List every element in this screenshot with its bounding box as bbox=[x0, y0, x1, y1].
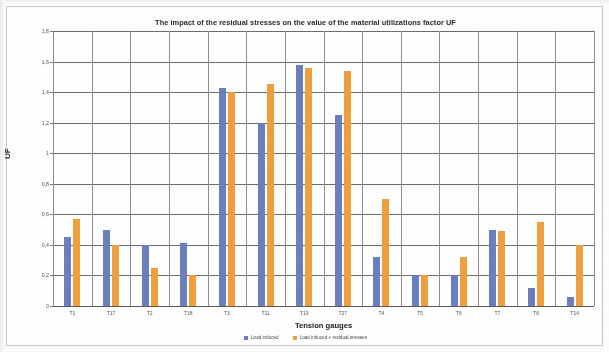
bar bbox=[498, 231, 505, 306]
gridline-vertical bbox=[169, 31, 170, 306]
x-tick-label: T2 bbox=[147, 310, 153, 316]
legend-item[interactable]: Load induced + residual stresses bbox=[293, 335, 367, 340]
y-tick-label: 0,8 bbox=[25, 181, 49, 187]
legend-swatch-icon bbox=[244, 336, 248, 340]
bar bbox=[228, 92, 235, 306]
bar bbox=[421, 275, 428, 306]
gridline-vertical bbox=[555, 31, 556, 306]
gridline-vertical bbox=[92, 31, 93, 306]
gridline-vertical bbox=[285, 31, 286, 306]
y-tick-label: 1,6 bbox=[25, 59, 49, 65]
y-tick-label: 0 bbox=[25, 303, 49, 309]
bar bbox=[451, 275, 458, 306]
x-tick-label: T4 bbox=[379, 310, 385, 316]
x-tick-label: T7 bbox=[494, 310, 500, 316]
bar bbox=[460, 257, 467, 306]
legend-item[interactable]: Load induced bbox=[244, 335, 279, 340]
bar bbox=[142, 245, 149, 306]
scan-edge-top bbox=[0, 0, 609, 5]
x-tick-label: T5 bbox=[417, 310, 423, 316]
x-axis-title: Tension gauges bbox=[53, 321, 594, 330]
bar bbox=[335, 115, 342, 306]
bar bbox=[258, 123, 265, 306]
bar bbox=[64, 237, 71, 306]
bar bbox=[537, 222, 544, 306]
bar bbox=[180, 243, 187, 306]
legend-label: Load induced bbox=[251, 335, 279, 340]
gridline-vertical bbox=[246, 31, 247, 306]
x-tick-label: T11 bbox=[261, 310, 269, 316]
bar bbox=[528, 288, 535, 306]
gridline-vertical bbox=[401, 31, 402, 306]
chart-legend: Load inducedLoad induced + residual stre… bbox=[7, 335, 604, 340]
x-tick-label: T18 bbox=[184, 310, 193, 316]
x-tick-label: T19 bbox=[300, 310, 309, 316]
bar bbox=[73, 219, 80, 306]
screenshot-root: The impact of the residual stresses on t… bbox=[0, 0, 609, 352]
y-tick-label: 0,2 bbox=[25, 272, 49, 278]
x-tick-label: T1 bbox=[69, 310, 75, 316]
bar bbox=[489, 230, 496, 306]
x-tick-label: T6 bbox=[456, 310, 462, 316]
bar bbox=[151, 268, 158, 306]
y-tick-label: 1 bbox=[25, 150, 49, 156]
plot-area bbox=[53, 31, 594, 306]
bar bbox=[576, 245, 583, 306]
x-tick-label: T14 bbox=[570, 310, 579, 316]
bar bbox=[373, 257, 380, 306]
bar bbox=[382, 199, 389, 306]
gridline-vertical bbox=[594, 31, 595, 306]
gridline-vertical bbox=[53, 31, 54, 306]
legend-swatch-icon bbox=[293, 336, 297, 340]
y-tick-label: 1,4 bbox=[25, 89, 49, 95]
gridline-vertical bbox=[478, 31, 479, 306]
bar bbox=[305, 68, 312, 306]
bar bbox=[296, 65, 303, 306]
y-axis-tick-layer: 00,20,40,60,811,21,41,61,8 bbox=[7, 31, 53, 306]
y-tick-label: 1,8 bbox=[25, 28, 49, 34]
y-tick-label: 1,2 bbox=[25, 120, 49, 126]
legend-label: Load induced + residual stresses bbox=[300, 335, 367, 340]
gridline-vertical bbox=[362, 31, 363, 306]
bar bbox=[103, 230, 110, 306]
chart-title: The impact of the residual stresses on t… bbox=[7, 18, 604, 27]
bar bbox=[112, 245, 119, 306]
gridline-vertical bbox=[439, 31, 440, 306]
bar bbox=[189, 275, 196, 306]
x-tick-label: T27 bbox=[339, 310, 348, 316]
y-tick-label: 0,4 bbox=[25, 242, 49, 248]
gridline-vertical bbox=[324, 31, 325, 306]
bar bbox=[219, 88, 226, 306]
x-tick-label: T3 bbox=[224, 310, 230, 316]
y-axis-title: UF bbox=[3, 148, 12, 159]
bar bbox=[567, 297, 574, 306]
x-tick-label: T8 bbox=[533, 310, 539, 316]
gridline-vertical bbox=[130, 31, 131, 306]
chart-frame: The impact of the residual stresses on t… bbox=[6, 6, 603, 346]
gridline-horizontal bbox=[53, 306, 594, 307]
bar bbox=[267, 84, 274, 306]
y-tick-label: 0,6 bbox=[25, 211, 49, 217]
bar bbox=[344, 71, 351, 306]
x-tick-label: T17 bbox=[107, 310, 116, 316]
gridline-vertical bbox=[208, 31, 209, 306]
bar bbox=[412, 275, 419, 306]
gridline-vertical bbox=[517, 31, 518, 306]
